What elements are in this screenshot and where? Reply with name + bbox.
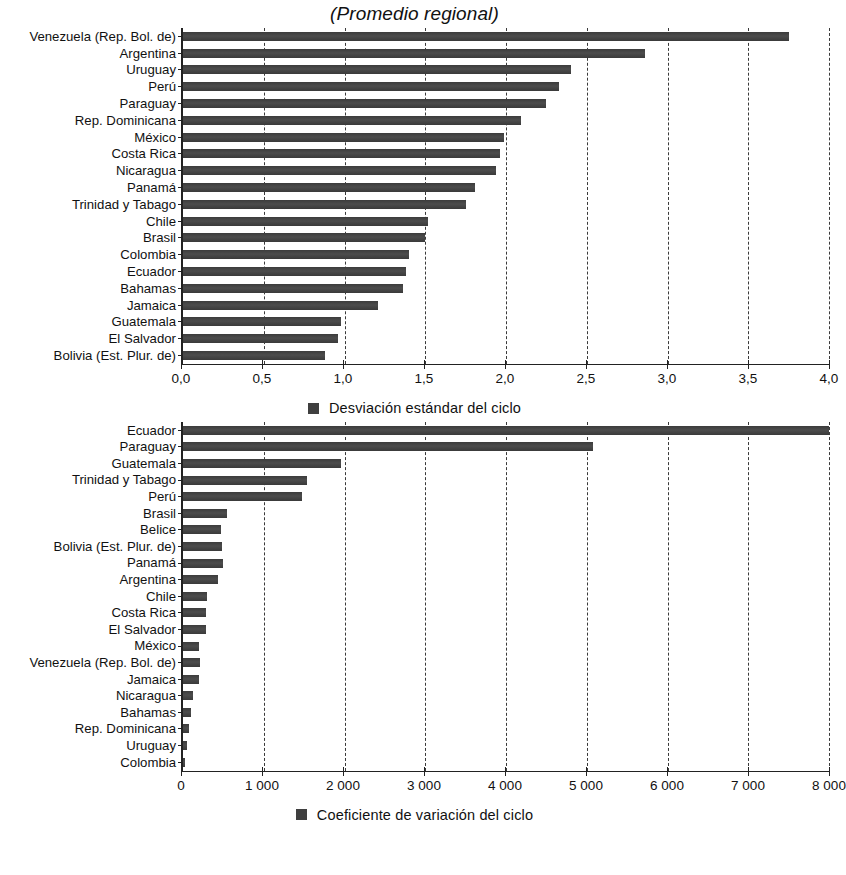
legend-swatch-icon: [308, 403, 319, 414]
y-axis-tick: [178, 563, 183, 564]
y-axis-tick: [178, 53, 183, 54]
y-axis-tick: [178, 430, 183, 431]
y-axis-tick: [178, 446, 183, 447]
bar: [183, 492, 302, 501]
y-axis-tick: [178, 221, 183, 222]
gridline: [587, 422, 588, 771]
bar: [183, 284, 403, 293]
category-label: Venezuela (Rep. Bol. de): [0, 654, 176, 671]
x-axis-tick: [181, 360, 182, 369]
y-axis-tick: [178, 103, 183, 104]
y-axis-tick: [178, 338, 183, 339]
bar: [183, 608, 206, 617]
category-label: Colombia: [0, 246, 176, 263]
y-axis-tick: [178, 254, 183, 255]
category-label: Panamá: [0, 179, 176, 196]
x-axis-tick: [424, 767, 425, 776]
category-label: México: [0, 129, 176, 146]
x-axis-tick-label: 0,0: [172, 371, 191, 386]
x-axis-tick-label: 0,5: [253, 371, 272, 386]
panel2-x-axis: 01 0002 0003 0004 0005 0006 0007 0008 00…: [181, 771, 829, 801]
bar: [183, 116, 521, 125]
x-axis-tick-label: 2,0: [496, 371, 515, 386]
category-label: Uruguay: [0, 62, 176, 79]
bar: [183, 149, 500, 158]
x-axis-tick-label: 1,0: [334, 371, 353, 386]
x-axis-tick: [262, 360, 263, 369]
category-label: Rep. Dominicana: [0, 112, 176, 129]
category-label: El Salvador: [0, 621, 176, 638]
y-axis-tick: [178, 288, 183, 289]
y-axis-tick: [178, 546, 183, 547]
bar: [183, 183, 475, 192]
x-axis-tick-label: 8 000: [812, 778, 846, 793]
category-label: Costa Rica: [0, 146, 176, 163]
x-axis-tick-label: 7 000: [731, 778, 765, 793]
gridline: [748, 422, 749, 771]
category-label: Jamaica: [0, 297, 176, 314]
x-axis-tick: [748, 360, 749, 369]
bar: [183, 509, 227, 518]
x-axis-tick-label: 3,0: [658, 371, 677, 386]
category-label: Bahamas: [0, 280, 176, 297]
y-axis-tick: [178, 69, 183, 70]
x-axis-tick-label: 0: [177, 778, 185, 793]
panel2-plot-area: [181, 422, 829, 771]
category-label: Rep. Dominicana: [0, 721, 176, 738]
x-axis-tick: [424, 360, 425, 369]
gridline: [587, 28, 588, 364]
category-label: Nicaragua: [0, 162, 176, 179]
gridline: [345, 422, 346, 771]
y-axis-tick: [178, 646, 183, 647]
page-title: (Promedio regional): [0, 0, 829, 28]
category-label: Venezuela (Rep. Bol. de): [0, 28, 176, 45]
y-axis-tick: [178, 86, 183, 87]
x-axis-tick: [829, 360, 830, 369]
category-label: Paraguay: [0, 439, 176, 456]
bar: [183, 442, 593, 451]
y-axis-tick: [178, 579, 183, 580]
y-axis-tick: [178, 237, 183, 238]
bar: [183, 217, 428, 226]
bar: [183, 32, 789, 41]
x-axis-tick-label: 3 000: [407, 778, 441, 793]
category-label: Guatemala: [0, 455, 176, 472]
x-axis-tick: [505, 767, 506, 776]
bar: [183, 575, 218, 584]
gridline: [668, 28, 669, 364]
x-axis-tick: [181, 767, 182, 776]
category-label: Trinidad y Tabago: [0, 472, 176, 489]
gridline: [506, 28, 507, 364]
category-label: Chile: [0, 588, 176, 605]
y-axis-tick: [178, 463, 183, 464]
bar: [183, 625, 206, 634]
gridline: [264, 28, 265, 364]
y-axis-tick: [178, 762, 183, 763]
bar: [183, 200, 466, 209]
y-axis-tick: [178, 679, 183, 680]
category-label: Nicaragua: [0, 688, 176, 705]
category-label: Argentina: [0, 571, 176, 588]
y-axis-tick: [178, 712, 183, 713]
y-axis-tick: [178, 305, 183, 306]
y-axis-tick: [178, 187, 183, 188]
category-label: Ecuador: [0, 263, 176, 280]
panel1-legend: Desviación estándar del ciclo: [0, 394, 829, 422]
category-label: Bolivia (Est. Plur. de): [0, 347, 176, 364]
category-label: México: [0, 638, 176, 655]
gridline: [506, 422, 507, 771]
bar: [183, 542, 222, 551]
y-axis-tick: [178, 137, 183, 138]
y-axis-tick: [178, 271, 183, 272]
x-axis-tick-label: 3,5: [739, 371, 758, 386]
legend-swatch-icon: [296, 809, 307, 820]
category-label: Brasil: [0, 505, 176, 522]
category-label: Perú: [0, 488, 176, 505]
gridline: [425, 422, 426, 771]
panel1-category-labels: Venezuela (Rep. Bol. de)ArgentinaUruguay…: [0, 28, 181, 364]
gridline: [425, 28, 426, 364]
x-axis-tick-label: 4 000: [488, 778, 522, 793]
category-label: El Salvador: [0, 330, 176, 347]
y-axis-tick: [178, 355, 183, 356]
